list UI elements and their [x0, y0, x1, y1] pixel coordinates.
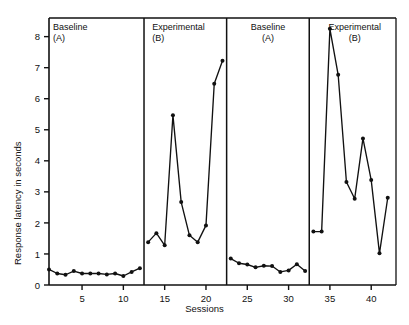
data-point — [369, 178, 373, 182]
phase-name: Baseline — [236, 22, 300, 33]
phase-label-1: Baseline(A) — [53, 22, 88, 44]
data-point — [353, 197, 357, 201]
data-point — [80, 272, 84, 276]
phase-label-3: Baseline(A) — [236, 22, 300, 44]
phase-name: Experimental — [152, 22, 205, 33]
x-tick-label: 40 — [366, 293, 377, 304]
data-point — [179, 200, 183, 204]
phase-label-4: Experimental(B) — [323, 22, 387, 44]
y-tick-label: 6 — [35, 93, 40, 104]
data-point — [171, 113, 175, 117]
data-point — [64, 273, 68, 277]
x-tick-label: 10 — [118, 293, 129, 304]
data-point — [154, 231, 158, 235]
data-point — [196, 240, 200, 244]
chart-plot-area: 012345678510152025303540 — [0, 0, 409, 325]
data-point — [262, 264, 266, 268]
phase-condition: (A) — [236, 33, 300, 44]
data-point — [386, 196, 390, 200]
data-point — [270, 264, 274, 268]
data-point — [204, 223, 208, 227]
data-point — [146, 240, 150, 244]
data-point — [187, 233, 191, 237]
data-point — [287, 268, 291, 272]
x-tick-label: 35 — [325, 293, 336, 304]
data-point — [311, 230, 315, 234]
data-point — [97, 272, 101, 276]
y-tick-label: 2 — [35, 218, 40, 229]
data-point — [320, 230, 324, 234]
x-tick-label: 20 — [201, 293, 212, 304]
data-point — [121, 274, 125, 278]
data-point — [254, 265, 258, 269]
data-point — [163, 243, 167, 247]
phase-label-2: Experimental(B) — [152, 22, 205, 44]
data-point — [237, 261, 241, 265]
x-tick-label: 5 — [79, 293, 84, 304]
data-point — [295, 262, 299, 266]
y-tick-label: 0 — [35, 280, 40, 291]
data-point — [229, 257, 233, 261]
y-tick-label: 5 — [35, 124, 40, 135]
data-point — [303, 269, 307, 273]
phase-name: Experimental — [323, 22, 387, 33]
data-point — [221, 59, 225, 63]
y-tick-label: 4 — [35, 155, 40, 166]
y-tick-label: 1 — [35, 249, 40, 260]
data-point — [88, 272, 92, 276]
data-point — [113, 272, 117, 276]
data-point — [336, 73, 340, 77]
data-point — [278, 270, 282, 274]
data-point — [361, 136, 365, 140]
phase-condition: (B) — [152, 33, 205, 44]
data-point — [212, 82, 216, 86]
y-tick-label: 7 — [35, 62, 40, 73]
figure-container: Response latency in seconds Sessions 012… — [0, 0, 409, 325]
x-tick-label: 15 — [159, 293, 170, 304]
phase-condition: (A) — [53, 33, 88, 44]
data-line-segment-2 — [148, 61, 222, 245]
data-point — [245, 263, 249, 267]
data-point — [130, 270, 134, 274]
data-point — [105, 272, 109, 276]
data-point — [138, 266, 142, 270]
data-point — [377, 251, 381, 255]
y-tick-label: 8 — [35, 31, 40, 42]
y-tick-label: 3 — [35, 186, 40, 197]
data-point — [47, 267, 51, 271]
data-line-segment-1 — [49, 268, 140, 276]
data-point — [344, 180, 348, 184]
data-point — [55, 272, 59, 276]
phase-name: Baseline — [53, 22, 88, 33]
x-tick-label: 25 — [242, 293, 253, 304]
phase-condition: (B) — [323, 33, 387, 44]
data-point — [72, 269, 76, 273]
data-line-segment-3 — [231, 259, 305, 272]
data-line-segment-4 — [313, 29, 387, 253]
x-tick-label: 30 — [283, 293, 294, 304]
